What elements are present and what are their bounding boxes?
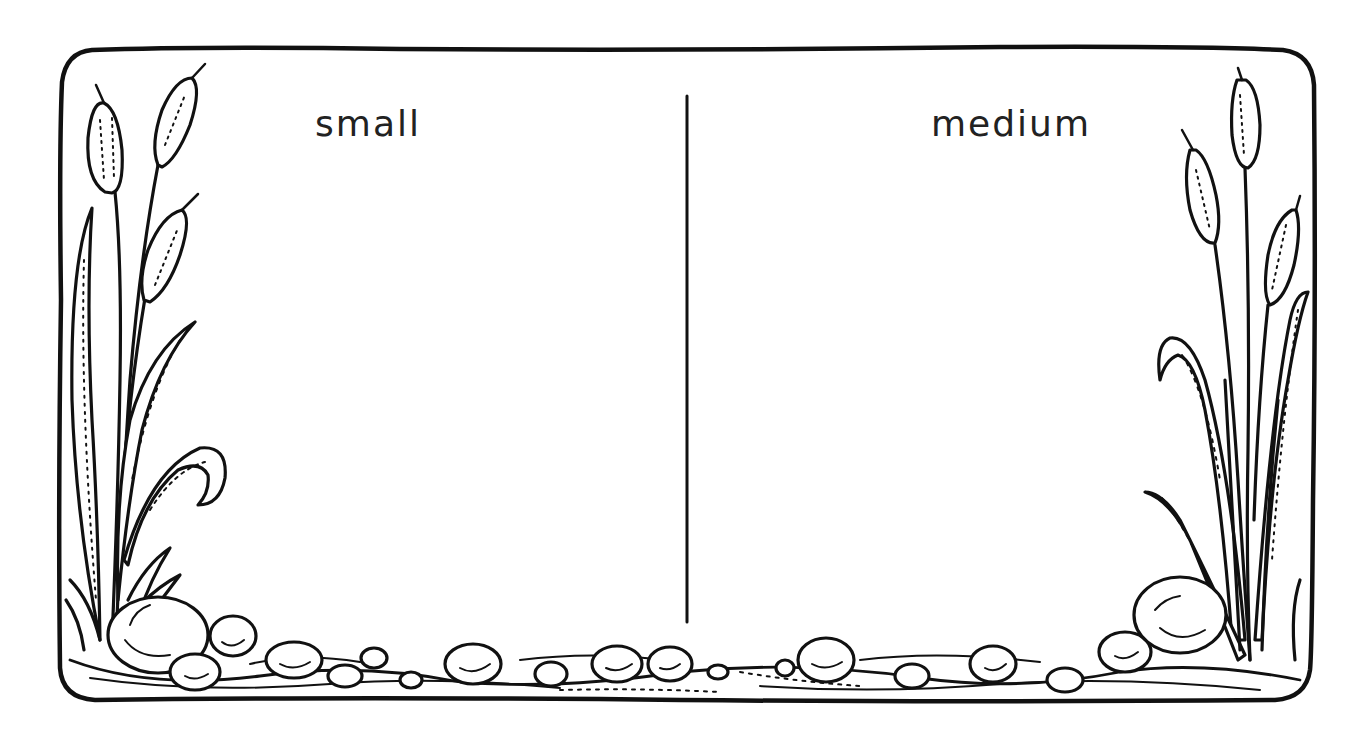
pebbles (108, 577, 1226, 692)
left-cattails (66, 64, 225, 650)
column-label-small: small (315, 106, 421, 142)
column-label-medium: medium (931, 106, 1091, 142)
right-cattails (1145, 68, 1308, 660)
decorative-border-illustration (0, 0, 1370, 739)
sorting-mat: small medium (0, 0, 1370, 739)
